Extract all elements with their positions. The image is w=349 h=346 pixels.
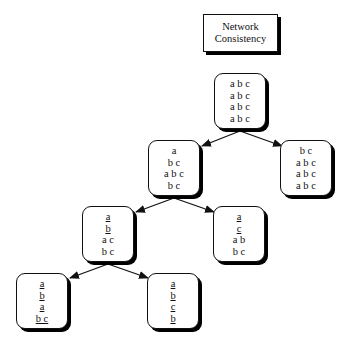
domain-line: a bbox=[40, 278, 45, 290]
domain-line: a c bbox=[102, 234, 114, 246]
domain-line: b bbox=[170, 313, 175, 325]
domain-line: b bbox=[105, 223, 110, 235]
node-level2-left: ab ca b cb c bbox=[148, 140, 200, 196]
node-level4-right: abcb bbox=[147, 273, 199, 329]
domain-line: a b c bbox=[296, 168, 316, 180]
node-level4-left: abab c bbox=[16, 273, 68, 329]
domain-line: a b bbox=[233, 234, 246, 246]
domain-line: b c bbox=[36, 313, 49, 325]
edge-level3-left-to-level4-left bbox=[70, 264, 108, 278]
edge-root-to-level2-left bbox=[202, 131, 240, 146]
title-line-2: Consistency bbox=[215, 33, 266, 45]
domain-line: a b c bbox=[230, 113, 250, 125]
domain-line: a b c bbox=[296, 157, 316, 169]
domain-line: b c bbox=[168, 157, 181, 169]
node-level2-right: b ca b ca b ca b c bbox=[280, 140, 332, 196]
node-level3-right: aca bb c bbox=[213, 206, 265, 262]
edge-level2-left-to-level3-left bbox=[136, 198, 174, 212]
edge-level3-left-to-level4-right bbox=[108, 264, 148, 278]
domain-line: a b c bbox=[164, 168, 184, 180]
domain-line: b bbox=[39, 290, 44, 302]
edge-level2-left-to-level3-right bbox=[174, 198, 214, 212]
domain-line: b bbox=[170, 290, 175, 302]
domain-line: a b c bbox=[230, 90, 250, 102]
domain-line: a b c bbox=[230, 78, 250, 90]
domain-line: b c bbox=[168, 180, 181, 192]
domain-line: a bbox=[172, 145, 177, 157]
domain-line: b c bbox=[102, 246, 115, 258]
domain-line: a bbox=[237, 211, 242, 223]
domain-line: a b c bbox=[230, 101, 250, 113]
domain-line: b c bbox=[233, 246, 246, 258]
domain-line: a bbox=[106, 211, 111, 223]
domain-line: a b c bbox=[296, 180, 316, 192]
domain-line: c bbox=[171, 301, 176, 313]
domain-line: a bbox=[171, 278, 176, 290]
domain-line: c bbox=[237, 223, 242, 235]
node-root: a b ca b ca b ca b c bbox=[214, 73, 266, 129]
node-level3-left: aba cb c bbox=[82, 206, 134, 262]
domain-line: a bbox=[40, 301, 45, 313]
diagram-title: Network Consistency bbox=[203, 14, 278, 52]
edge-root-to-level2-right bbox=[240, 131, 282, 146]
title-line-1: Network bbox=[222, 21, 259, 33]
domain-line: b c bbox=[300, 145, 313, 157]
